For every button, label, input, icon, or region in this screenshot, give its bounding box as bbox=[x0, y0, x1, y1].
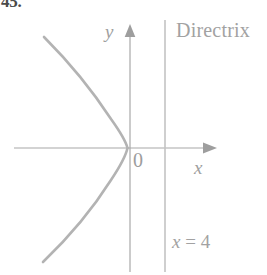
origin-label: 0 bbox=[133, 150, 143, 170]
directrix-equation-label: x = 4 bbox=[172, 232, 210, 251]
directrix-equation-value: 4 bbox=[201, 231, 211, 252]
x-axis-arrowhead-icon bbox=[203, 143, 217, 154]
directrix-equation-variable: x bbox=[172, 231, 180, 252]
directrix-equation-relation: = bbox=[185, 231, 196, 252]
parabola-upper-branch bbox=[44, 37, 128, 148]
directrix-caption: Directrix bbox=[176, 20, 250, 40]
x-axis-label: x bbox=[194, 158, 202, 177]
y-axis-arrowhead-icon bbox=[125, 24, 136, 37]
figure-container: 45. y x 0 Directrix x = 4 bbox=[0, 0, 267, 275]
parabola-figure bbox=[0, 0, 267, 275]
parabola-lower-branch bbox=[43, 148, 128, 262]
y-axis-label: y bbox=[105, 22, 113, 41]
